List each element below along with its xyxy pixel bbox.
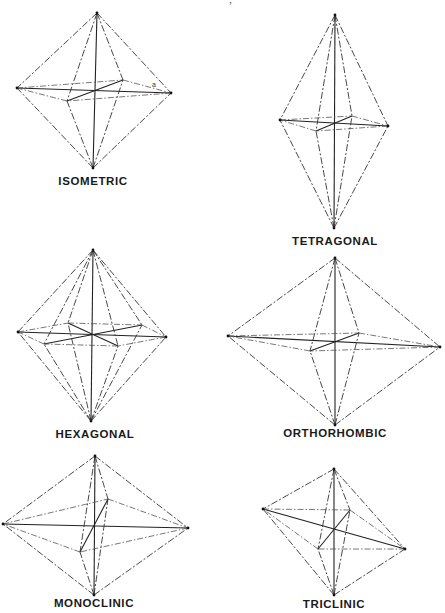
monoclinic-upper-edge [95,456,188,528]
isometric-upper-edge [97,13,123,80]
isometric-vertex [92,167,95,170]
tetragonal-lower-edge [334,126,388,228]
orthorhombic-vertex [227,335,230,338]
hexagonal-upper-edge [93,250,142,325]
monoclinic-lower-edge [3,524,94,595]
orthorhombic-equator-edge [228,333,359,336]
hexagonal-upper-edge [44,250,93,344]
triclinic-lower-edge [318,549,334,595]
triclinic-upper-edge [263,469,334,509]
orthorhombic-vertex [334,424,337,427]
hexagonal-lower-edge [44,344,91,421]
tetragonal-upper-edge [335,15,352,116]
triclinic-vertex [333,468,336,471]
isometric-vertex [170,92,173,95]
tetragonal-vertex [334,14,337,17]
monoclinic-vertex [93,594,96,597]
tetragonal-c-axis [334,15,335,228]
hexagonal-equator-edge [118,337,166,346]
orthorhombic-vertex [334,257,337,260]
triclinic-vertex [262,508,265,511]
orthorhombic-lower-edge [335,347,440,425]
isometric-vertex [96,12,99,15]
hexagonal-upper-edge [68,250,93,323]
tetragonal-lower-edge [280,120,334,228]
hexagonal-equator-edge [142,325,166,337]
monoclinic-upper-edge [3,456,95,524]
hexagonal-c-axis [91,250,93,421]
isometric-upper-edge [97,13,171,93]
hexagonal-equator-edge [44,344,118,346]
isometric-equator-edge [123,80,171,93]
orthorhombic-vertex [439,346,442,349]
orthorhombic-equator-edge [310,347,440,351]
isometric-axis-label: a [152,81,156,88]
monoclinic-lower-edge [80,552,94,595]
hexagonal-a3-axis [44,325,142,344]
monoclinic-vertex [187,527,190,530]
isometric-equator-edge [17,88,67,101]
triclinic-upper-edge [318,469,334,549]
orthorhombic-upper-edge [310,258,335,351]
isometric-upper-edge [17,13,97,88]
label-triclinic: TRICLINIC [303,598,365,610]
triclinic-upper-edge [334,469,350,510]
tetragonal-lower-edge [316,131,334,228]
monoclinic-equator-edge [3,524,80,552]
monoclinic-vertex [94,455,97,458]
isometric-equator-edge [17,80,123,88]
label-orthorhombic: ORTHORHOMBIC [283,427,387,439]
monoclinic-equator-edge [108,499,188,528]
orthorhombic-upper-edge [228,258,335,336]
orthorhombic-lower-edge [228,336,335,425]
hexagonal-vertex [165,336,168,339]
label-tetragonal: TETRAGONAL [292,235,378,247]
triclinic-lower-edge [334,510,350,595]
orthorhombic-upper-edge [335,258,440,347]
tetragonal-vertex [279,119,282,122]
triclinic-vertex [333,594,336,597]
isometric-lower-edge [93,80,123,168]
hexagonal-upper-edge [18,250,93,332]
triclinic-equator-edge [350,510,405,549]
orthorhombic-upper-edge [335,258,359,333]
crystal-systems-diagram: a [0,0,445,613]
label-isometric: ISOMETRIC [58,175,127,187]
hexagonal-lower-edge [91,346,118,421]
hexagonal-equator-edge [18,332,44,344]
hexagonal-vertex [90,420,93,423]
triclinic-vertex [404,548,407,551]
isometric-lower-edge [93,93,171,168]
tetragonal-vertex [387,125,390,128]
isometric-equator-edge [67,93,171,101]
orthorhombic-lower-edge [335,333,359,425]
monoclinic-equator-edge [3,499,108,524]
tetragonal-vertex [333,227,336,230]
monoclinic-upper-edge [95,456,108,499]
triclinic-lower-edge [334,549,405,595]
isometric-vertex [16,87,19,90]
isometric-upper-edge [67,13,97,101]
hexagonal-vertex [92,249,95,252]
hexagonal-vertex [17,331,20,334]
monoclinic-vertex [2,523,5,526]
isometric-lower-edge [67,101,93,168]
hexagonal-equator-edge [68,323,142,325]
orthorhombic-lower-edge [310,351,335,425]
label-monoclinic: MONOCLINIC [54,597,134,609]
tetragonal-upper-edge [335,15,388,126]
tetragonal-equator-edge [280,116,352,120]
monoclinic-b-axis [3,524,188,528]
label-hexagonal: HEXAGONAL [56,428,135,440]
triclinic-equator-edge [263,509,350,510]
